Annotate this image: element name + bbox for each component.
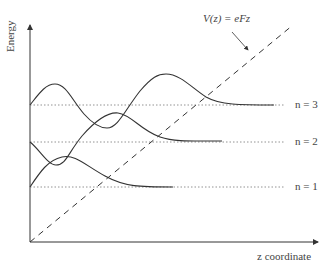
potential-pointer-arrow — [232, 32, 248, 50]
level-n1-label: n = 1 — [295, 180, 318, 192]
wavefunction-n2 — [30, 113, 222, 165]
potential-line — [30, 25, 293, 242]
wavefunction-n3 — [30, 74, 274, 128]
level-n3-label: n = 3 — [295, 98, 318, 110]
potential-label: V(z) = eFz — [203, 12, 250, 24]
x-axis-label: z coordinate — [257, 250, 311, 262]
level-n2-label: n = 2 — [295, 135, 318, 147]
y-axis-label: Energy — [4, 20, 16, 52]
energy-diagram — [0, 0, 333, 269]
